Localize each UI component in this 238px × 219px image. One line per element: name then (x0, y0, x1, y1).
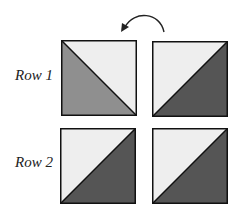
quilt-block-icon (152, 128, 228, 204)
half-square-triangle-r2-right (152, 128, 228, 204)
curved-arrow-left-icon (116, 8, 172, 38)
rotation-arrow (116, 8, 172, 38)
row-1-label: Row 1 (15, 67, 53, 84)
row-2-label: Row 2 (15, 154, 53, 171)
half-square-triangle-r1-right (152, 41, 228, 117)
quilt-block-icon (152, 41, 228, 117)
half-square-triangle-r2-left (60, 128, 136, 204)
quilt-block-icon (61, 40, 137, 116)
quilt-block-icon (60, 128, 136, 204)
half-square-triangle-r1-left (61, 40, 137, 116)
